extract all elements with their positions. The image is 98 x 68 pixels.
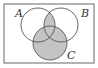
label-a: A bbox=[14, 7, 23, 20]
label-c: C bbox=[67, 49, 76, 62]
venn-diagram: A B C bbox=[0, 0, 98, 68]
label-b: B bbox=[80, 7, 89, 20]
